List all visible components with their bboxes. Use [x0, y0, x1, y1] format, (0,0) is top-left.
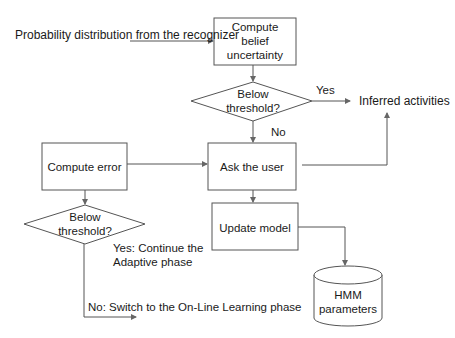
no-bottom-label: No: Switch to the On-Line Learning phase — [88, 300, 302, 314]
ask-user-label: Ask the user — [208, 160, 296, 174]
compute-belief-line-2: belief — [214, 34, 296, 48]
update-to-hmm-arrow — [298, 227, 345, 265]
decision-top-line-1: Below — [211, 87, 295, 101]
hmm-label: HMM parameters — [314, 288, 382, 316]
decision-bottom-line-2: threshold? — [44, 224, 126, 238]
yes-bottom-line-2: Adaptive phase — [113, 255, 203, 269]
hmm-line-2: parameters — [314, 302, 382, 316]
decision-bottom-line-1: Below — [44, 210, 126, 224]
input-label: Probability distribution from the recogn… — [15, 28, 239, 42]
decision-bottom-label: Below threshold? — [44, 210, 126, 238]
update-model-label: Update model — [212, 221, 298, 235]
compute-error-label: Compute error — [42, 160, 127, 174]
ask-to-inferred-arrow — [302, 113, 387, 165]
yes-top-label: Yes — [316, 83, 335, 97]
hmm-cylinder-top — [314, 266, 382, 284]
decision-top-label: Below threshold? — [211, 87, 295, 115]
compute-belief-line-1: Compute — [214, 20, 296, 34]
yes-bottom-label: Yes: Continue the Adaptive phase — [113, 241, 203, 269]
hmm-line-1: HMM — [314, 288, 382, 302]
compute-belief-line-3: uncertainty — [214, 48, 296, 62]
yes-bottom-line-1: Yes: Continue the — [113, 241, 203, 255]
inferred-activities-label: Inferred activities — [359, 94, 450, 108]
decision-top-line-2: threshold? — [211, 101, 295, 115]
no-top-label: No — [271, 125, 286, 139]
compute-belief-label: Compute belief uncertainty — [214, 20, 296, 62]
